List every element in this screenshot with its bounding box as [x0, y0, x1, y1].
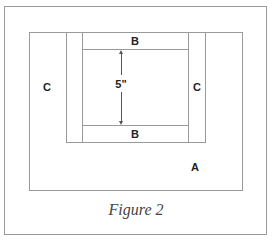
label-dimension: 5" [115, 79, 126, 90]
label-b-bottom: B [131, 129, 139, 140]
label-a: A [191, 162, 199, 173]
label-c-right: C [193, 82, 201, 93]
label-c-left: C [43, 82, 51, 93]
figure-caption: Figure 2 [109, 201, 164, 219]
dimension-line-bottom [121, 92, 122, 122]
dimension-line-top [121, 53, 122, 75]
strip-c-left [66, 32, 83, 143]
arrow-down-icon [119, 121, 123, 125]
region-a [29, 32, 243, 191]
label-b-top: B [131, 36, 139, 47]
